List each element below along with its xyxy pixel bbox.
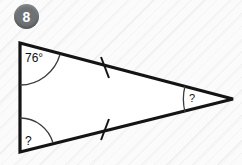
angle-label-bottom-left: ?	[25, 135, 32, 147]
angle-label-top-left: 76°	[25, 52, 43, 64]
worksheet-problem-figure: 8 76° ? ?	[0, 0, 242, 165]
triangle-shape	[20, 43, 233, 152]
triangle-figure	[0, 0, 242, 165]
angle-label-right: ?	[189, 93, 195, 104]
